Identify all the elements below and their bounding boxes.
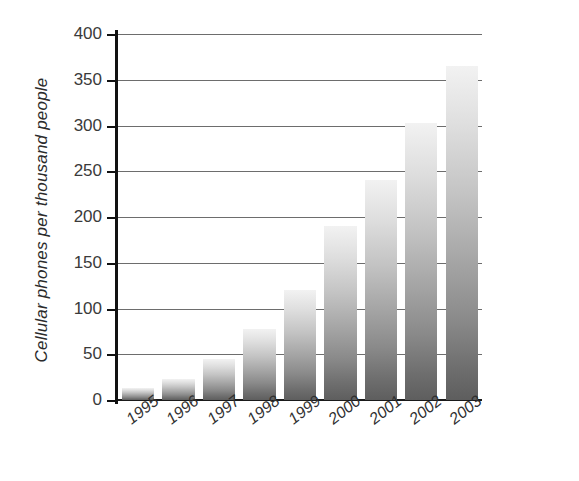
- gridline: [118, 34, 482, 35]
- bar: [324, 226, 356, 400]
- plot-area: [118, 34, 482, 400]
- y-axis-tick: [107, 400, 117, 402]
- y-axis-tick-label: 200: [54, 207, 102, 227]
- y-axis-tick-label: 50: [54, 344, 102, 364]
- y-axis-tick: [107, 34, 117, 36]
- y-axis-tick: [107, 309, 117, 311]
- y-axis-tick-label: 100: [54, 299, 102, 319]
- y-axis-tick: [107, 80, 117, 82]
- bar: [243, 329, 275, 400]
- bar: [365, 180, 397, 401]
- y-axis-tick-label: 350: [54, 70, 102, 90]
- y-axis-tick-labels: 050100150200250300350400: [50, 0, 102, 481]
- bar: [405, 123, 437, 400]
- y-axis-tick: [107, 217, 117, 219]
- gridline: [118, 80, 482, 81]
- y-axis-tick-label: 150: [54, 253, 102, 273]
- y-axis-tick-label: 300: [54, 116, 102, 136]
- y-axis-tick-label: 250: [54, 161, 102, 181]
- y-axis-tick-label: 0: [54, 390, 102, 410]
- y-axis-title: Cellular phones per thousand people: [32, 60, 52, 380]
- bar-chart: Cellular phones per thousand people 0501…: [0, 0, 579, 481]
- y-axis-tick: [107, 263, 117, 265]
- y-axis-tick: [107, 354, 117, 356]
- bar: [284, 290, 316, 400]
- x-axis-tick-labels: 199519961997199819992000200120022003: [118, 400, 538, 481]
- bar: [446, 66, 478, 400]
- y-axis-tick: [107, 171, 117, 173]
- y-axis-tick: [107, 126, 117, 128]
- y-axis-tick-label: 400: [54, 24, 102, 44]
